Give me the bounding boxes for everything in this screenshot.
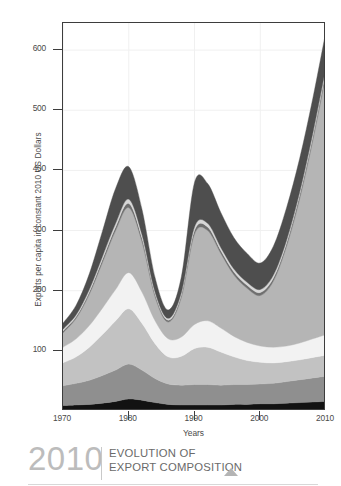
export-composition-chart: Exports per capita in constant 2010 US D… [0,0,341,486]
footer-rule [28,484,318,485]
x-tick-label: 2000 [239,413,279,423]
x-axis: 19701980199020002010 [0,0,341,486]
chart-footer: 2010 EVOLUTION OF EXPORT COMPOSITION [28,446,328,486]
x-tick-label: 1980 [108,413,148,423]
footer-divider [101,447,102,480]
x-tick-label: 2010 [305,413,341,423]
x-axis-title: Years [62,428,325,438]
footer-title: EVOLUTION OF EXPORT COMPOSITION [109,447,242,474]
triangle-up-icon [224,468,238,476]
footer-year: 2010 [28,442,103,475]
footer-title-line-1: EVOLUTION OF [109,447,242,461]
x-tick-label: 1970 [42,413,82,423]
x-tick-label: 1990 [174,413,214,423]
footer-title-line-2: EXPORT COMPOSITION [109,461,242,475]
